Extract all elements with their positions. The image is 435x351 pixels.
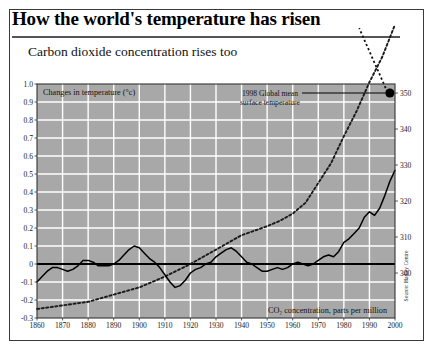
x-axis-tick-label: 1950: [260, 321, 275, 330]
x-axis-tick-label: 1930: [208, 321, 223, 330]
x-axis-tick-label: 1970: [311, 321, 326, 330]
temperature-co2-chart: -0.3-0.2-0.100.10.20.30.40.50.60.70.80.9…: [0, 0, 435, 351]
y-axis-tick-label: 0.4: [24, 188, 34, 197]
x-axis-tick-label: 1870: [55, 321, 70, 330]
x-axis-tick-label: 1880: [81, 321, 96, 330]
x-axis-tick-label: 1890: [106, 321, 121, 330]
marker-1998-dot: [385, 88, 394, 97]
y-axis-tick-label: 0.5: [24, 170, 34, 179]
y-axis-tick-label: 1.0: [24, 80, 34, 89]
y2-axis-tick-label: 310: [400, 233, 412, 242]
chart-svg: -0.3-0.2-0.100.10.20.30.40.50.60.70.80.9…: [0, 0, 435, 351]
y-axis-tick-label: -0.2: [21, 296, 33, 305]
y-axis-tick-label: 0.6: [24, 152, 34, 161]
y2-axis-tick-label: 350: [400, 89, 412, 98]
callout-text-line-2: surface temperature: [240, 98, 301, 107]
x-axis-tick-label: 1960: [285, 321, 300, 330]
y-axis-tick-label: 0.8: [24, 116, 34, 125]
x-axis-tick-label: 2000: [387, 321, 402, 330]
co2-axis-caption: CO₂ concentration, parts per million: [268, 306, 387, 315]
y-axis-tick-label: 0: [29, 260, 33, 269]
y-axis-tick-label: 0.2: [24, 224, 34, 233]
source-attribution: Source: Hadley Centre: [403, 250, 409, 301]
x-axis-tick-label: 1860: [29, 321, 44, 330]
x-axis-tick-label: 1900: [132, 321, 147, 330]
x-axis-tick-label: 1980: [336, 321, 351, 330]
y-axis-tick-label: 0.1: [24, 242, 34, 251]
temperature-axis-caption: Changes in temperature (°c): [43, 88, 135, 97]
x-axis-tick-label: 1990: [362, 321, 377, 330]
x-axis-tick-label: 1910: [157, 321, 172, 330]
callout-text-line-1: 1998 Global mean: [242, 89, 298, 98]
y-axis-tick-label: 0.9: [24, 98, 34, 107]
x-axis-tick-label: 1940: [234, 321, 249, 330]
y-axis-tick-label: 0.3: [24, 206, 34, 215]
y-axis-tick-label: -0.1: [21, 278, 33, 287]
y2-axis-tick-label: 340: [400, 125, 412, 134]
x-axis-tick-label: 1920: [183, 321, 198, 330]
y2-axis-tick-label: 320: [400, 197, 412, 206]
y2-axis-tick-label: 330: [400, 161, 412, 170]
y-axis-tick-label: 0.7: [24, 134, 34, 143]
